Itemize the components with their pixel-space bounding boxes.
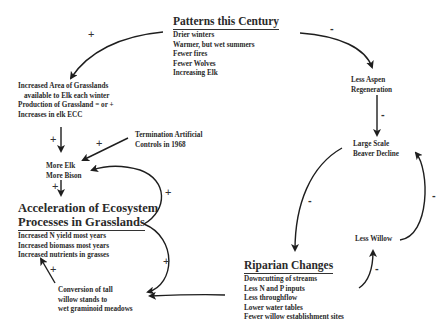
patterns-line: Drier winters <box>173 31 279 41</box>
sign-termination-to-elk: + <box>96 137 102 149</box>
riparian-line: Downcutting of streams <box>244 275 344 285</box>
grasslands-line: available to Elk each winter <box>18 92 114 102</box>
sign-riparian-to-willow: - <box>375 262 379 274</box>
more-elk-line: More Elk <box>46 162 82 172</box>
riparian-line: Fewer willow establishment sites <box>244 313 344 323</box>
node-acceleration: Acceleration of Ecosystem Processes in G… <box>18 201 158 261</box>
arrow-termination-to-elk <box>83 138 128 160</box>
node-grasslands-area: Increased Area of Grasslands available t… <box>18 82 114 120</box>
node-beaver-decline: Large Scale Beaver Decline <box>353 140 399 159</box>
sign-loop-lower: + <box>163 255 169 267</box>
acceleration-title: Acceleration of Ecosystem <box>18 201 158 215</box>
riparian-line: Less throughflow <box>244 294 344 304</box>
arrow-riparian-to-willow <box>359 251 373 288</box>
beaver-line: Large Scale <box>353 140 399 150</box>
acceleration-title: Processes in Grasslands <box>18 215 145 231</box>
termination-line: Controls in 1968 <box>135 141 202 151</box>
sign-patterns-to-aspen: - <box>330 22 334 34</box>
patterns-line: Fewer Wolves <box>173 60 279 70</box>
sign-willow-to-beaver: - <box>432 189 436 201</box>
sign-elk-to-acceleration: + <box>52 180 58 192</box>
arrow-patterns-to-aspen <box>300 33 372 67</box>
node-more-elk-bison: More Elk More Bison <box>46 162 82 181</box>
node-less-willow: Less Willow <box>355 235 392 245</box>
riparian-title: Riparian Changes <box>244 259 333 274</box>
arrow-beaver-to-riparian <box>295 148 342 250</box>
conversion-line: Conversion of tall <box>58 286 133 296</box>
less-willow-line: Less Willow <box>355 235 392 245</box>
arrow-patterns-to-grasslands <box>71 32 163 78</box>
patterns-title: Patterns this Century <box>173 15 279 30</box>
acceleration-line: Increased biomass most years <box>18 242 158 252</box>
arrow-riparian-to-conversion <box>150 295 225 296</box>
sign-grasslands-to-elk: + <box>50 133 56 145</box>
termination-line: Termination Artificial <box>135 131 202 141</box>
patterns-line: Warmer, but wet summers <box>173 41 279 51</box>
riparian-line: Less N and P inputs <box>244 285 344 295</box>
sign-patterns-to-grasslands: + <box>88 28 94 40</box>
conversion-line: wet graminoid meadows <box>58 305 133 315</box>
acceleration-line: Increased nutrients in grasses <box>18 251 158 261</box>
node-less-aspen: Less Aspen Regeneration <box>351 76 392 95</box>
grasslands-line: Increases in elk ECC <box>18 111 114 121</box>
node-patterns-this-century: Patterns this Century Drier winters Warm… <box>173 15 279 79</box>
sign-aspen-to-beaver: - <box>381 108 385 120</box>
sign-conversion-to-acceleration: + <box>50 263 56 275</box>
grasslands-line: Production of Grassland = or + <box>18 101 114 111</box>
riparian-line: Lower water tables <box>244 304 344 314</box>
arrow-willow-to-beaver <box>400 153 425 240</box>
patterns-line: Increasing Elk <box>173 69 279 79</box>
patterns-line: Fewer fires <box>173 50 279 60</box>
grasslands-line: Increased Area of Grasslands <box>18 82 114 92</box>
node-riparian-changes: Riparian Changes Downcutting of streams … <box>244 259 344 323</box>
node-conversion: Conversion of tall willow stands to wet … <box>58 286 133 315</box>
sign-beaver-to-riparian: - <box>308 194 312 206</box>
less-aspen-line: Regeneration <box>351 86 392 96</box>
conversion-line: willow stands to <box>58 296 133 306</box>
node-termination-controls: Termination Artificial Controls in 1968 <box>135 131 202 150</box>
acceleration-line: Increased N yield most years <box>18 232 158 242</box>
less-aspen-line: Less Aspen <box>351 76 392 86</box>
sign-loop-upper: + <box>165 186 171 198</box>
beaver-line: Beaver Decline <box>353 150 399 160</box>
